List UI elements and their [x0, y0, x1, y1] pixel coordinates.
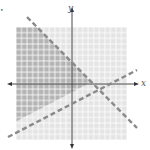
x-axis-label: x	[141, 78, 146, 88]
y-axis-label: y	[67, 3, 74, 13]
y-axis-bottom-arrow-icon	[70, 144, 74, 149]
inequality-graph: y x •	[0, 0, 150, 150]
x-axis-right-arrow-icon	[134, 82, 139, 86]
problem-marker: •	[0, 6, 4, 13]
x-axis-left-arrow-icon	[7, 82, 12, 86]
